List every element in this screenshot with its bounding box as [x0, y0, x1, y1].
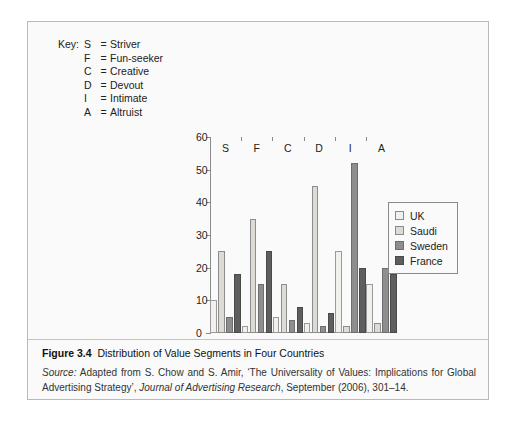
chart-axes: 0102030405060 SFCDIA: [210, 137, 397, 333]
figure-title-text: Distribution of Value Segments in Four C…: [97, 347, 324, 359]
bar-uk-f: [242, 326, 249, 333]
x-axis-label: F: [254, 142, 260, 154]
bar-france-a: [390, 274, 397, 333]
bar-sweden-f: [258, 284, 265, 333]
y-axis-label: 10: [196, 294, 200, 306]
legend-swatch-icon: [395, 256, 404, 265]
bar-uk-c: [273, 317, 280, 333]
key-letter: I: [84, 92, 97, 106]
journal-name: Journal of Advertising Research: [139, 382, 280, 393]
legend-label: Saudi: [410, 225, 437, 237]
source-text-last: , September (2006), 301–14.: [281, 382, 409, 393]
legend-item-sweden: Sweden: [395, 238, 448, 253]
key-equals: =: [97, 65, 110, 79]
bar-sweden-c: [289, 320, 296, 333]
x-axis-tick: [272, 137, 273, 141]
key-letter: F: [84, 52, 97, 66]
key-letter: D: [84, 79, 97, 93]
key-equals: =: [97, 52, 110, 66]
y-axis-label: 30: [196, 229, 200, 241]
key-equals: =: [97, 38, 110, 52]
y-axis-label: 20: [196, 262, 200, 274]
caption-divider: [28, 339, 488, 340]
key-lead-spacer: [58, 106, 84, 120]
key-letter: A: [84, 106, 97, 120]
key-term: Devout: [110, 79, 143, 93]
key-term: Fun-seeker: [110, 52, 163, 66]
legend-swatch-icon: [395, 211, 404, 220]
key-equals: =: [97, 79, 110, 93]
bar-uk-a: [366, 284, 373, 333]
bar-uk-d: [304, 323, 311, 333]
key-row: A=Altruist: [58, 106, 163, 120]
figure-caption: Figure 3.4 Distribution of Value Segment…: [42, 347, 476, 395]
x-axis-label: S: [222, 142, 229, 154]
key-letter: C: [84, 65, 97, 79]
key-legend-block: Key:S=Striver F=Fun-seeker C=Creative D=…: [58, 38, 163, 120]
key-row: I=Intimate: [58, 92, 163, 106]
bar-uk-i: [335, 251, 342, 333]
legend-label: France: [410, 255, 443, 267]
x-axis-label: I: [349, 142, 352, 154]
key-lead-label: Key:: [58, 38, 84, 52]
x-axis-tick: [335, 137, 336, 141]
key-lead-spacer: [58, 79, 84, 93]
key-term: Intimate: [110, 92, 147, 106]
y-axis-label: 0: [196, 327, 200, 339]
bar-france-f: [266, 251, 273, 333]
y-axis-label: 40: [196, 196, 200, 208]
legend-swatch-icon: [395, 226, 404, 235]
source-word: Source:: [42, 367, 76, 378]
x-axis-tick: [366, 137, 367, 141]
figure-number: Figure 3.4: [42, 347, 92, 359]
key-letter: S: [84, 38, 97, 52]
key-row: C=Creative: [58, 65, 163, 79]
figure-source-line: Source: Adapted from S. Chow and S. Amir…: [42, 365, 476, 395]
bar-france-c: [297, 307, 304, 333]
key-row: Key:S=Striver: [58, 38, 163, 52]
key-term: Altruist: [110, 106, 142, 120]
x-axis-tick: [241, 137, 242, 141]
key-lead-spacer: [58, 65, 84, 79]
legend-item-france: France: [395, 253, 448, 268]
key-term: Creative: [110, 65, 149, 79]
bar-saudi-a: [374, 323, 381, 333]
x-axis-label: D: [315, 142, 323, 154]
x-axis-label: A: [378, 142, 385, 154]
bar-france-d: [328, 313, 335, 333]
bar-saudi-d: [312, 186, 319, 333]
chart-legend: UK Saudi Sweden France: [388, 202, 458, 274]
bar-sweden-s: [226, 317, 233, 333]
bar-france-s: [234, 274, 241, 333]
x-axis-tick: [304, 137, 305, 141]
bar-sweden-i: [351, 163, 358, 333]
bar-saudi-f: [250, 219, 257, 333]
x-axis-label: C: [284, 142, 292, 154]
bar-uk-s: [210, 300, 217, 333]
figure-frame: Key:S=Striver F=Fun-seeker C=Creative D=…: [27, 21, 489, 400]
legend-swatch-icon: [395, 241, 404, 250]
y-axis-label: 60: [196, 131, 200, 143]
legend-label: UK: [410, 210, 425, 222]
key-term: Striver: [110, 38, 140, 52]
bar-saudi-c: [281, 284, 288, 333]
key-row: D=Devout: [58, 79, 163, 93]
key-row: F=Fun-seeker: [58, 52, 163, 66]
legend-label: Sweden: [410, 240, 448, 252]
key-equals: =: [97, 92, 110, 106]
bar-saudi-i: [343, 326, 350, 333]
key-lead-spacer: [58, 52, 84, 66]
y-axis-tick: [206, 333, 211, 334]
figure-title-line: Figure 3.4 Distribution of Value Segment…: [42, 347, 476, 359]
legend-item-uk: UK: [395, 208, 448, 223]
legend-item-saudi: Saudi: [395, 223, 448, 238]
bar-france-i: [359, 268, 366, 333]
key-equals: =: [97, 106, 110, 120]
key-lead-spacer: [58, 92, 84, 106]
bar-sweden-a: [382, 268, 389, 333]
bar-saudi-s: [218, 251, 225, 333]
y-axis-label: 50: [196, 164, 200, 176]
bar-sweden-d: [320, 326, 327, 333]
